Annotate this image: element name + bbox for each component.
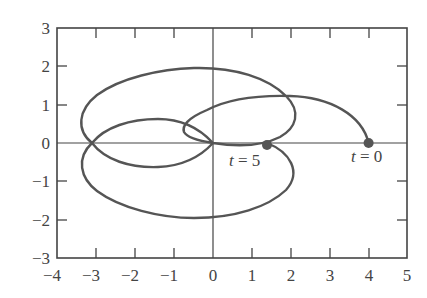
annotation-t0-value: = 0	[356, 147, 383, 166]
x-label-neg1: −1	[160, 266, 178, 285]
x-tick-labels: −4 −3 −2 −1 0 1 2 3 4 5	[43, 266, 411, 285]
y-tick-labels: 3 2 1 0 −1 −2 −3	[32, 19, 50, 268]
x-label-4: 4	[365, 266, 374, 285]
x-label-5: 5	[403, 266, 412, 285]
x-label-2: 2	[287, 266, 296, 285]
x-label-neg2: −2	[121, 266, 139, 285]
y-label-neg1: −1	[32, 172, 50, 191]
parametric-plot: 3 2 1 0 −1 −2 −3 −4 −3 −2 −1 0 1 2 3 4 5…	[0, 0, 427, 298]
annotation-t5: t = 5	[229, 151, 260, 170]
x-label-0: 0	[209, 266, 218, 285]
x-label-1: 1	[248, 266, 257, 285]
annotation-t0: t = 0	[351, 147, 382, 166]
y-label-2: 2	[42, 57, 51, 76]
x-label-neg3: −3	[82, 266, 100, 285]
y-label-neg2: −2	[32, 211, 50, 230]
marker-t5	[262, 140, 272, 150]
x-label-neg4: −4	[43, 266, 62, 285]
x-label-3: 3	[326, 266, 335, 285]
y-label-0: 0	[42, 134, 51, 153]
y-label-1: 1	[42, 96, 51, 115]
y-label-3: 3	[42, 19, 51, 38]
annotation-t5-value: = 5	[234, 151, 261, 170]
